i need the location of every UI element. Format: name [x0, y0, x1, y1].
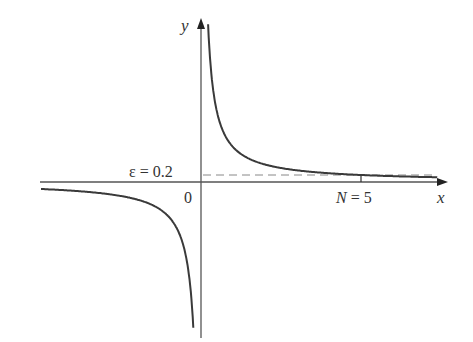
epsilon-label: ε = 0.2 — [129, 163, 173, 180]
origin-label: 0 — [184, 189, 192, 206]
n-label-rest: = 5 — [347, 189, 372, 206]
chart-plot: y x 0 ε = 0.2 N = 5 — [0, 0, 473, 342]
y-axis-label: y — [179, 16, 189, 35]
curve-positive-branch — [208, 24, 437, 177]
n-label: N = 5 — [335, 189, 372, 206]
curve-negative-branch — [41, 189, 193, 328]
y-axis-arrow-icon — [197, 18, 205, 29]
x-axis-label: x — [436, 188, 445, 207]
x-axis-arrow-icon — [437, 178, 448, 186]
